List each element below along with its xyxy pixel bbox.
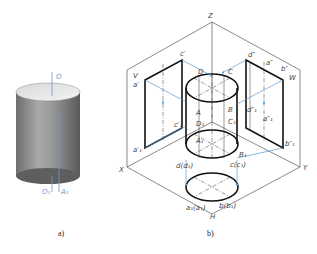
side-view-rect <box>246 60 283 148</box>
cylinder-body <box>16 92 80 176</box>
label-B: B <box>228 106 233 114</box>
label-C1: C₁ <box>228 118 236 126</box>
label-b-b1: b(b₁) <box>219 202 236 210</box>
label-B1: B₁ <box>239 151 247 159</box>
proj-a-front <box>145 80 186 102</box>
side-view <box>246 60 283 148</box>
label-Y: Y <box>303 164 308 172</box>
front-view <box>145 60 182 148</box>
label-W: W <box>289 74 297 82</box>
label-c-c1: c(c₁) <box>230 161 246 169</box>
figure-b-projection: Z X Y H V W c′ a′ a′₁ c′₁ d″ a″ b″ d″₁ a… <box>118 12 308 238</box>
label-D1: D₁ <box>196 120 204 128</box>
label-O: O <box>56 73 62 81</box>
label-b-dprime: b″ <box>281 65 288 73</box>
label-d-dprime: d″ <box>248 51 255 59</box>
caption-a: a) <box>58 229 65 238</box>
top-view-ellipse <box>186 173 238 201</box>
label-a-dprime: a″ <box>266 59 273 67</box>
label-D: D <box>198 68 204 76</box>
label-c-prime: c′ <box>180 50 186 58</box>
v-plane-top-edge <box>127 22 212 70</box>
label-a1-a1: a₁(a₁) <box>186 204 206 212</box>
label-V: V <box>133 72 139 80</box>
front-view-rect <box>145 60 182 148</box>
label-d1-dprime: d″₁ <box>247 106 257 114</box>
w-plane-top-edge <box>212 22 300 70</box>
label-C: C <box>228 68 233 76</box>
figure-a-shaded-cylinder: O O₁ A₁ a) <box>16 72 80 238</box>
label-Z: Z <box>207 12 213 20</box>
label-H: H <box>210 213 216 221</box>
proj-a1-front <box>145 126 186 148</box>
label-c1-prime: c′₁ <box>174 121 182 129</box>
label-b1-dprime: b″₁ <box>285 140 295 148</box>
label-a1-prime: a′₁ <box>133 146 142 154</box>
cylinder-top <box>16 83 80 101</box>
caption-b: b) <box>207 229 214 238</box>
label-A: A <box>195 109 201 117</box>
proj-d-side <box>222 60 246 73</box>
label-d-d1: d(d₁) <box>176 162 193 170</box>
proj-b-side <box>237 80 283 104</box>
cylinder-bottom <box>16 168 80 184</box>
label-a-prime: a′ <box>133 81 139 89</box>
label-A1: A₁ <box>195 137 204 145</box>
label-O1: O₁ <box>42 188 51 196</box>
projection-frame <box>127 22 300 214</box>
label-X: X <box>118 166 124 174</box>
label-a1-dprime: a″₁ <box>263 115 273 123</box>
figure-canvas: O O₁ A₁ a) <box>0 0 317 254</box>
top-view <box>186 173 238 201</box>
label-A1: A₁ <box>60 188 69 196</box>
proj-c-front <box>182 60 212 76</box>
